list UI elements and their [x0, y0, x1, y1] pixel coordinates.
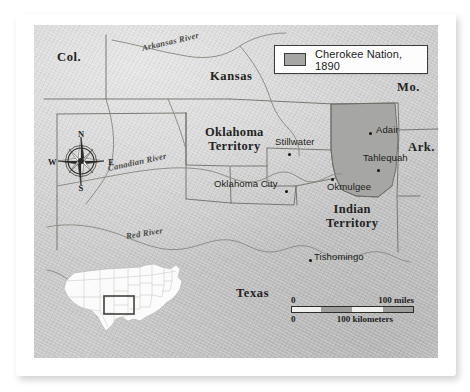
scale-km-zero: 0 — [291, 314, 296, 324]
compass-east-label: E — [108, 157, 114, 167]
scale-km-value: 100 kilometers — [337, 314, 393, 324]
legend-label: Cherokee Nation, 1890 — [315, 48, 427, 72]
indian-territory-line2: Territory — [326, 217, 378, 231]
scale-miles-value: 100 miles — [378, 295, 414, 305]
city-label-adair: Adair — [376, 124, 399, 135]
label-texas: Texas — [236, 286, 269, 301]
compass-south-label: S — [79, 183, 84, 193]
scale-seg-3 — [352, 307, 382, 312]
label-kansas: Kansas — [210, 69, 253, 84]
scale-miles-row: 0 100 miles — [291, 295, 414, 306]
label-missouri: Mo. — [397, 80, 420, 95]
usa-silhouette — [64, 264, 182, 331]
scale-seg-1 — [292, 307, 321, 312]
indian-territory-line1: Indian — [326, 203, 378, 217]
united-states-inset — [54, 251, 192, 343]
city-label-oklahoma-city: Oklahoma City — [214, 178, 278, 189]
label-oklahoma-territory: Oklahoma Territory — [205, 126, 264, 153]
tributary-line — [168, 99, 186, 150]
compass-north-label: N — [78, 129, 84, 139]
scale-bar: 0 100 miles 0 100 kilometers — [291, 295, 414, 325]
city-label-tishomingo: Tishomingo — [314, 251, 364, 262]
map-legend: Cherokee Nation, 1890 — [274, 45, 428, 74]
oklahoma-territory-line1: Oklahoma — [205, 126, 264, 140]
label-arkansas: Ark. — [408, 140, 435, 155]
compass-rose: N S W E — [48, 130, 114, 192]
city-label-tahlequah: Tahlequah — [363, 152, 408, 163]
scale-seg-4 — [383, 307, 413, 312]
scale-miles-zero: 0 — [291, 295, 296, 305]
cherokee-nation-swatch — [284, 53, 306, 66]
scale-seg-2 — [321, 307, 352, 312]
label-colorado: Col. — [57, 50, 81, 65]
map-screenshot: Col. Kansas Mo. Ark. Texas Oklahoma Terr… — [0, 0, 470, 392]
compass-west-label: W — [48, 157, 57, 167]
oklahoma-territory-line2: Territory — [205, 140, 264, 154]
label-indian-territory: Indian Territory — [326, 203, 378, 230]
scale-bar-graphic — [291, 306, 414, 313]
city-label-okmulgee: Okmulgee — [327, 181, 371, 192]
scale-km-row: 0 100 kilometers — [291, 314, 414, 325]
city-label-stillwater: Stillwater — [275, 136, 315, 147]
